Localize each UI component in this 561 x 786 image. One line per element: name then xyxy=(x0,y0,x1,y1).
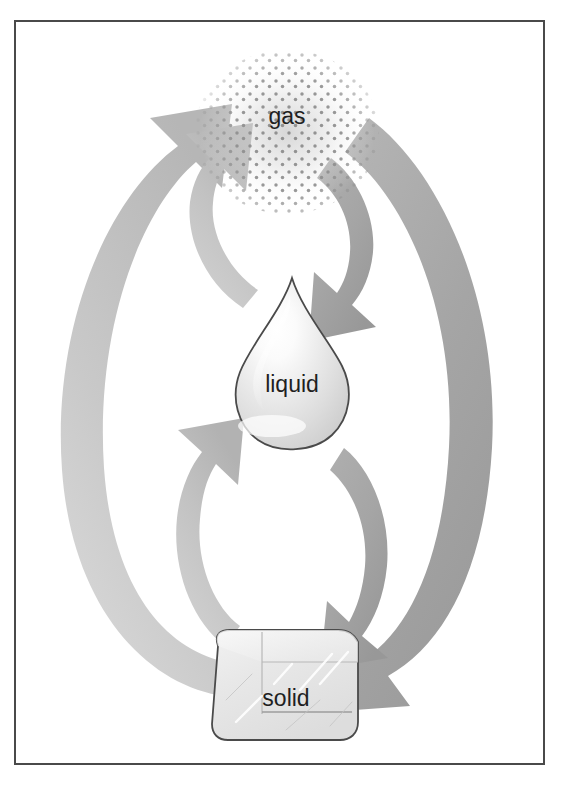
solid-state: solid xyxy=(212,630,358,740)
liquid-specular xyxy=(238,415,306,437)
gas-state: gas xyxy=(195,50,379,214)
arrow-melting-solid-to-liquid xyxy=(176,418,244,646)
gas-particles xyxy=(195,50,379,214)
solid-label: solid xyxy=(262,685,309,711)
gas-label: gas xyxy=(268,103,305,129)
phase-change-diagram: gas liquid xyxy=(0,0,561,786)
liquid-label: liquid xyxy=(265,371,319,397)
figure-canvas: gas liquid xyxy=(0,0,561,786)
